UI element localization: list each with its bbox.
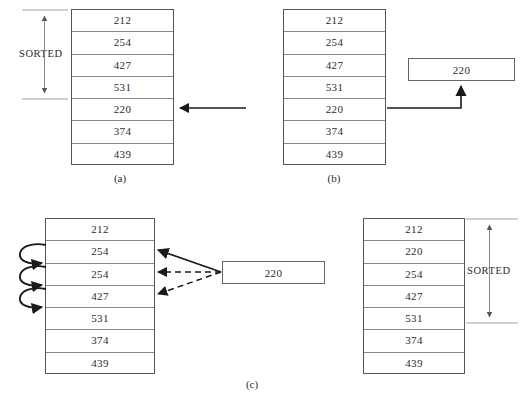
array-cell: 427 xyxy=(364,286,464,308)
array-cell: 374 xyxy=(46,330,154,352)
array-panel-c: 212 254 254 427 531 374 439 xyxy=(45,218,155,374)
array-cell: 531 xyxy=(364,308,464,330)
array-cell: 254 xyxy=(46,264,154,286)
array-cell: 374 xyxy=(72,121,173,143)
temp-value-box-b: 220 xyxy=(408,58,515,81)
sorted-bracket-label-a: SORTED xyxy=(18,48,64,59)
array-cell: 220 xyxy=(284,99,385,121)
array-cell: 531 xyxy=(72,77,173,99)
array-cell: 254 xyxy=(72,32,173,54)
array-panel-a: 212 254 427 531 220 374 439 xyxy=(71,9,174,165)
array-cell: 212 xyxy=(72,10,173,32)
array-cell: 254 xyxy=(46,241,154,263)
array-cell: 427 xyxy=(46,286,154,308)
array-cell: 220 xyxy=(72,99,173,121)
array-cell: 439 xyxy=(284,144,385,166)
panel-caption-c: (c) xyxy=(230,378,274,390)
compare-arrows-c xyxy=(158,250,221,294)
array-cell: 254 xyxy=(364,264,464,286)
array-panel-b: 212 254 427 531 220 374 439 xyxy=(283,9,386,165)
array-cell: 212 xyxy=(46,219,154,241)
array-cell: 531 xyxy=(284,77,385,99)
array-cell: 427 xyxy=(72,55,173,77)
temp-value-box-c: 220 xyxy=(222,261,325,284)
array-cell: 220 xyxy=(364,241,464,263)
copy-to-temp-arrow-b xyxy=(387,86,461,108)
sorted-bracket-label-d: SORTED xyxy=(466,265,512,276)
array-panel-d: 212 220 254 427 531 374 439 xyxy=(363,218,465,374)
panel-caption-b: (b) xyxy=(312,172,356,184)
array-cell: 531 xyxy=(46,308,154,330)
array-cell: 374 xyxy=(284,121,385,143)
array-cell: 212 xyxy=(364,219,464,241)
panel-caption-a: (a) xyxy=(98,172,142,184)
array-cell: 439 xyxy=(72,144,173,166)
array-cell: 439 xyxy=(46,353,154,375)
array-cell: 374 xyxy=(364,330,464,352)
array-cell: 254 xyxy=(284,32,385,54)
shift-loop-arrows-c xyxy=(20,244,46,307)
array-cell: 427 xyxy=(284,55,385,77)
figure-canvas: 212 254 427 531 220 374 439 SORTED (a) 2… xyxy=(0,0,527,401)
array-cell: 439 xyxy=(364,353,464,375)
array-cell: 212 xyxy=(284,10,385,32)
